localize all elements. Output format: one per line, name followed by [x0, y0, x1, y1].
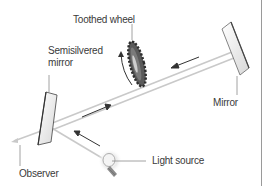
label-toothed-wheel: Toothed wheel: [73, 14, 135, 25]
diagram-drawing: [0, 0, 263, 186]
observer-beam-arrowhead-icon: [11, 138, 18, 143]
arrow-toward-wheel-icon: [171, 63, 179, 68]
light-source-bulb-icon: [98, 149, 122, 177]
fizeau-apparatus-diagram: Toothed wheel Semisilvered mirror Mirror…: [0, 0, 263, 186]
mirror-icon: [222, 22, 249, 75]
arrow-from-source-icon: [74, 131, 80, 136]
label-semisilvered-line1: Semisilvered: [48, 45, 103, 56]
frame-border: [261, 0, 262, 186]
label-semisilvered-line2: mirror: [48, 57, 73, 68]
rotation-arrowhead-icon: [118, 51, 124, 57]
label-light-source: Light source: [152, 155, 204, 166]
label-observer: Observer: [19, 168, 59, 179]
toothed-wheel-icon: [125, 40, 150, 88]
label-mirror: Mirror: [213, 97, 238, 108]
semisilvered-mirror-icon: [38, 92, 57, 145]
